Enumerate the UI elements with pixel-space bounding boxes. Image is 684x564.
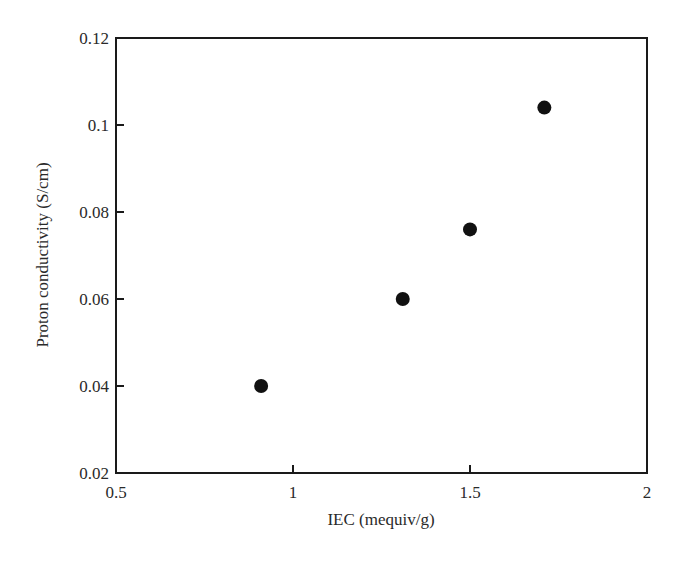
data-points	[254, 101, 551, 393]
y-axis-title: Proton conductivity (S/cm)	[33, 162, 52, 347]
plot-frame	[116, 38, 647, 473]
data-point	[537, 101, 551, 115]
x-axis: 0.511.52	[105, 465, 651, 502]
y-tick-label: 0.04	[79, 377, 109, 396]
y-axis: 0.020.040.060.080.10.12	[79, 29, 124, 483]
data-point	[463, 222, 477, 236]
data-point	[254, 379, 268, 393]
x-tick-label: 0.5	[105, 483, 126, 502]
scatter-chart: 0.020.040.060.080.10.12 0.511.52 IEC (me…	[0, 0, 684, 564]
y-tick-label: 0.06	[79, 290, 109, 309]
y-tick-label: 0.1	[88, 116, 109, 135]
x-tick-label: 1.5	[459, 483, 480, 502]
y-tick-label: 0.08	[79, 203, 109, 222]
data-point	[396, 292, 410, 306]
x-axis-title: IEC (mequiv/g)	[327, 510, 434, 529]
x-tick-label: 1	[289, 483, 298, 502]
y-tick-label: 0.12	[79, 29, 109, 48]
x-tick-label: 2	[643, 483, 652, 502]
y-tick-label: 0.02	[79, 464, 109, 483]
